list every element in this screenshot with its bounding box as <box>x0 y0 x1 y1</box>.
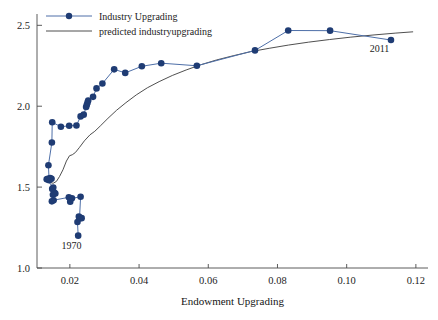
endowment-vs-industry-upgrading-chart: 0.020.040.060.080.100.12 1.01.52.02.5 19… <box>0 0 438 320</box>
data-point-marker <box>99 80 106 87</box>
data-point-marker <box>76 214 83 221</box>
data-point-marker <box>66 194 73 201</box>
x-tick-label: 0.08 <box>268 275 286 286</box>
chart-annotations: 19702011 <box>62 43 390 251</box>
legend-marker-observed <box>66 13 72 19</box>
data-point-marker <box>194 62 201 69</box>
data-point-marker <box>73 122 80 129</box>
x-axis-title: Endowment Upgrading <box>181 295 284 307</box>
annotation-1970: 1970 <box>62 240 82 251</box>
plot-area <box>43 27 413 239</box>
y-tick-label: 1.0 <box>17 263 30 274</box>
legend-label-industry-upgrading: Industry Upgrading <box>99 11 178 22</box>
data-point-marker <box>49 198 56 205</box>
data-point-marker <box>285 27 292 34</box>
x-tick-label: 0.12 <box>407 275 425 286</box>
x-tick-label: 0.04 <box>130 275 149 286</box>
data-point-marker <box>45 162 52 169</box>
data-point-marker <box>58 123 65 130</box>
data-point-marker <box>46 177 53 184</box>
data-point-marker <box>49 119 56 126</box>
y-tick-label: 1.5 <box>17 182 30 193</box>
y-tick-label: 2.0 <box>17 101 30 112</box>
x-axis-ticks: 0.020.040.060.080.100.12 <box>61 264 425 286</box>
x-tick-label: 0.06 <box>199 275 217 286</box>
data-point-marker <box>139 63 146 70</box>
y-tick-label: 2.5 <box>17 20 30 31</box>
data-point-marker <box>66 122 73 129</box>
data-point-marker <box>122 70 129 77</box>
data-point-marker <box>49 139 56 146</box>
data-point-marker <box>252 47 259 54</box>
y-axis-ticks: 1.01.52.02.5 <box>17 20 42 274</box>
legend-label-predicted-industryupgrading: predicted industryupgrading <box>99 26 212 37</box>
chart-container: 0.020.040.060.080.100.12 1.01.52.02.5 19… <box>0 0 438 320</box>
predicted-series-line <box>45 32 413 183</box>
data-point-marker <box>111 66 118 73</box>
x-tick-label: 0.10 <box>337 275 355 286</box>
data-point-marker <box>158 60 165 67</box>
data-point-marker <box>80 111 87 118</box>
chart-legend: Industry Upgrading predicted industryupg… <box>46 11 212 37</box>
data-point-marker <box>50 184 57 191</box>
data-point-marker <box>77 194 84 201</box>
annotation-2011: 2011 <box>370 43 390 54</box>
data-point-marker <box>75 232 82 239</box>
data-point-marker <box>93 85 100 92</box>
x-tick-label: 0.02 <box>61 275 79 286</box>
data-point-marker <box>90 94 97 101</box>
observed-series-line <box>47 31 391 236</box>
data-point-marker <box>327 27 334 34</box>
